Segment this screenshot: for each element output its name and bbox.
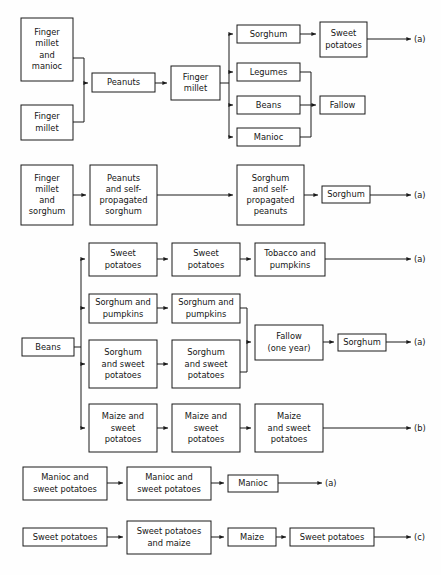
node-label-line: Finger — [183, 72, 209, 82]
node-label-line: potatoes — [105, 434, 141, 444]
node-label-line: Sorghum — [104, 347, 141, 357]
node-label-line: propagated — [100, 195, 148, 205]
node-label-line: Sweet potatoes — [33, 532, 98, 542]
node-label-line: Finger — [34, 111, 60, 121]
node-box[interactable]: Peanuts — [92, 73, 155, 92]
node-label-line: Manioc and — [41, 472, 89, 482]
node-label-line: potatoes — [188, 434, 224, 444]
node-label-line: Manioc — [238, 478, 268, 488]
node-box[interactable]: Fingermillet — [21, 105, 73, 140]
node-box[interactable]: Maize andsweetpotatoes — [89, 404, 157, 452]
node-label-line: Maize and — [185, 411, 227, 421]
node-label-line: Sorghum — [252, 173, 289, 183]
group-section-1: FingermilletandmaniocFingermilletPeanuts… — [21, 18, 367, 146]
node-label-line: sweet — [194, 423, 219, 433]
node-label-line: sorghum — [29, 206, 66, 216]
node-label-line: potatoes — [105, 370, 141, 380]
node-box[interactable]: Sorghum — [338, 334, 386, 351]
terminal-label-c-1: (c) — [414, 532, 425, 542]
node-label-line: Sorghum — [327, 189, 364, 199]
node-label-line: and self- — [106, 184, 141, 194]
node-box[interactable]: Maize andsweetpotatoes — [172, 404, 240, 452]
node-label-line: Beans — [35, 342, 60, 352]
node-box[interactable]: Sweet potatoes — [23, 528, 107, 546]
node-label-line: and self- — [253, 184, 288, 194]
node-label-line: millet — [35, 184, 59, 194]
node-label-line: pumpkins — [103, 309, 144, 319]
node-box[interactable]: Fingermillet — [171, 66, 220, 100]
node-box[interactable]: Sorghumand self-propagatedpeanuts — [237, 165, 304, 225]
node-label-line: sorghum — [105, 206, 142, 216]
node-label-line: potatoes — [188, 370, 224, 380]
node-label-line: and — [39, 50, 55, 60]
node-box[interactable]: Peanutsand self-propagatedsorghum — [90, 165, 157, 225]
node-box[interactable]: Manioc andsweet potatoes — [23, 467, 107, 500]
node-label-line: Sorghum — [343, 337, 380, 347]
node-label-line: Sweet — [331, 28, 357, 38]
node-label-line: Manioc — [254, 132, 284, 142]
node-label-line: millet — [35, 38, 59, 48]
terminal-label-a-2: (a) — [414, 190, 426, 200]
node-box[interactable]: Tobacco andpumpkins — [255, 243, 325, 276]
node-box[interactable]: Sweet potatoesand maize — [127, 521, 211, 554]
node-label-line: pumpkins — [270, 260, 311, 270]
node-box[interactable]: Sweetpotatoes — [320, 22, 367, 57]
node-label-line: Fallow — [276, 331, 302, 341]
node-label-line: millet — [35, 123, 59, 133]
node-label-line: and sweet — [268, 423, 312, 433]
node-label-line: Tobacco and — [263, 248, 316, 258]
node-box[interactable]: Beans — [237, 96, 300, 114]
terminal-label-a-5: (a) — [325, 478, 337, 488]
node-label-line: Sorghum — [187, 347, 224, 357]
node-box[interactable]: Manioc — [228, 475, 278, 492]
node-box[interactable]: Sorghumand sweetpotatoes — [172, 340, 240, 388]
node-box[interactable]: Fallow(one year) — [255, 325, 323, 360]
node-label-line: (one year) — [267, 343, 310, 353]
node-label-line: Sorghum and — [95, 297, 151, 307]
node-box[interactable]: Maizeand sweetpotatoes — [255, 404, 323, 452]
node-label-line: Peanuts — [107, 77, 140, 87]
node-label-line: potatoes — [325, 40, 361, 50]
group-section-5: Sweet potatoesSweet potatoesand maizeMai… — [23, 521, 374, 554]
node-box[interactable]: Sorghum andpumpkins — [89, 294, 157, 323]
node-box[interactable]: Sweetpotatoes — [172, 243, 240, 276]
node-label-line: peanuts — [254, 206, 288, 216]
node-box[interactable]: Sorghum — [237, 25, 300, 43]
node-box[interactable]: Sorghum — [322, 186, 370, 203]
terminal-label-a-3: (a) — [414, 254, 426, 264]
node-label-line: sweet — [111, 423, 136, 433]
node-label-line: Peanuts — [107, 173, 140, 183]
node-box[interactable]: Manioc — [237, 128, 300, 146]
node-box[interactable]: Fingermilletandsorghum — [21, 165, 73, 225]
node-label-line: and — [39, 195, 55, 205]
node-label-line: Sorghum and — [178, 297, 234, 307]
node-label-line: sweet potatoes — [137, 484, 201, 494]
node-box[interactable]: Fingermilletandmanioc — [21, 18, 73, 81]
node-label-line: Sorghum — [250, 29, 287, 39]
node-label-line: pumpkins — [186, 309, 227, 319]
node-box[interactable]: Fallow — [320, 96, 365, 114]
node-box[interactable]: Legumes — [237, 63, 300, 81]
node-box[interactable]: Sweet potatoes — [290, 528, 374, 546]
node-label-line: potatoes — [271, 434, 307, 444]
node-label-line: Legumes — [250, 67, 288, 77]
terminal-label-b-1: (b) — [414, 423, 426, 433]
node-box[interactable]: Sorghumand sweetpotatoes — [89, 340, 157, 388]
node-box[interactable]: Manioc andsweet potatoes — [127, 467, 211, 500]
node-label-line: Manioc and — [145, 472, 193, 482]
node-boxes-layer: FingermilletandmaniocFingermilletPeanuts… — [21, 18, 386, 554]
node-label-line: Sweet potatoes — [137, 526, 202, 536]
node-label-line: Maize — [277, 411, 301, 421]
node-box[interactable]: Beans — [22, 338, 74, 356]
node-label-line: Sweet — [110, 248, 136, 258]
node-box[interactable]: Maize — [228, 528, 276, 546]
node-label-line: and maize — [147, 538, 190, 548]
node-box[interactable]: Sorghum andpumpkins — [172, 294, 240, 323]
node-label-line: manioc — [32, 61, 63, 71]
node-label-line: potatoes — [105, 260, 141, 270]
node-label-line: millet — [184, 83, 208, 93]
node-label-line: Fallow — [330, 100, 356, 110]
crop-rotation-diagram: FingermilletandmaniocFingermilletPeanuts… — [0, 0, 441, 575]
node-box[interactable]: Sweetpotatoes — [89, 243, 157, 276]
node-label-line: Beans — [256, 100, 281, 110]
